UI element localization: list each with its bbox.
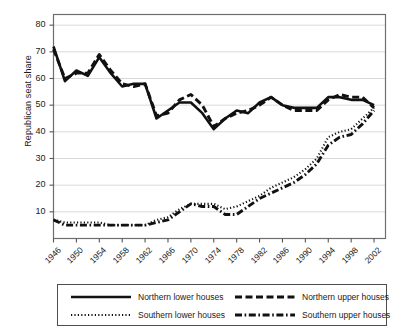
- y-tick-label-30: 30: [20, 153, 46, 163]
- y-tick-label-10: 10: [20, 206, 46, 216]
- legend-item-southern-upper-houses[interactable]: Southern upper houses: [234, 307, 390, 323]
- y-tick-label-70: 70: [20, 46, 46, 56]
- legend-key-dotted-icon: [70, 308, 132, 322]
- grid-lines: [54, 25, 386, 212]
- x-axis-tick-marks: [54, 239, 375, 243]
- legend-label: Southern upper houses: [302, 310, 390, 320]
- y-tick-label-80: 80: [20, 19, 46, 29]
- y-tick-label-40: 40: [20, 126, 46, 136]
- series-line-northern-lower-houses: [54, 47, 375, 130]
- legend-key-solid-icon: [70, 290, 132, 304]
- legend-key-dashed-icon: [234, 290, 296, 304]
- legend-label: Northern lower houses: [138, 292, 224, 302]
- y-tick-label-20: 20: [20, 179, 46, 189]
- legend-item-northern-upper-houses[interactable]: Northern upper houses: [234, 289, 389, 305]
- legend-key-dash-dot-icon: [234, 308, 296, 322]
- data-series-group: [54, 47, 375, 226]
- y-tick-label-60: 60: [20, 73, 46, 83]
- plot-frame: [54, 15, 386, 239]
- chart-legend: Northern lower housesNorthern upper hous…: [57, 284, 387, 326]
- chart-figure: Republican seat share 1020304050607080 1…: [0, 0, 396, 333]
- legend-label: Northern upper houses: [302, 292, 389, 302]
- legend-item-southern-lower-houses[interactable]: Southern lower houses: [70, 307, 225, 323]
- legend-item-northern-lower-houses[interactable]: Northern lower houses: [70, 289, 224, 305]
- y-tick-label-50: 50: [20, 99, 46, 109]
- legend-label: Southern lower houses: [138, 310, 225, 320]
